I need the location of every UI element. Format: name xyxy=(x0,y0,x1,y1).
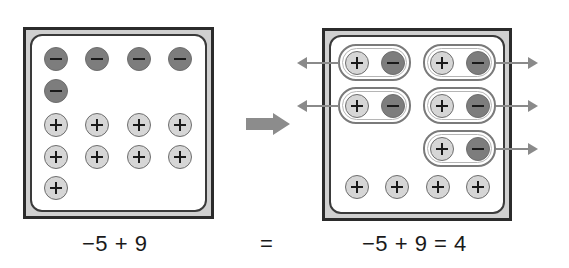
positive-counter xyxy=(345,175,369,199)
minus-icon xyxy=(131,51,147,67)
negative-counter xyxy=(168,47,192,71)
positive-counter xyxy=(345,51,369,75)
negative-counter xyxy=(381,51,405,75)
plus-icon xyxy=(48,180,64,196)
negative-counter xyxy=(44,79,68,103)
positive-counter xyxy=(127,113,151,137)
minus-icon xyxy=(48,83,64,99)
negative-counter xyxy=(466,51,490,75)
positive-counter xyxy=(430,137,454,161)
minus-icon xyxy=(172,51,188,67)
negative-counter xyxy=(44,47,68,71)
plus-icon xyxy=(430,179,446,195)
positive-counter xyxy=(168,113,192,137)
plus-icon xyxy=(434,141,450,157)
plus-icon xyxy=(349,98,365,114)
positive-counter xyxy=(44,113,68,137)
negative-counter xyxy=(466,137,490,161)
plus-icon xyxy=(131,149,147,165)
negative-counter xyxy=(466,94,490,118)
plus-icon xyxy=(48,117,64,133)
after-expression: −5 + 9 = 4 xyxy=(362,231,467,257)
minus-icon xyxy=(470,55,486,71)
before-expression: −5 + 9 xyxy=(82,231,147,257)
plus-icon xyxy=(434,55,450,71)
minus-icon xyxy=(89,51,105,67)
plus-icon xyxy=(434,98,450,114)
positive-counter xyxy=(466,175,490,199)
positive-counter xyxy=(44,176,68,200)
positive-counter xyxy=(430,94,454,118)
minus-icon xyxy=(470,141,486,157)
plus-icon xyxy=(349,179,365,195)
transform-arrow-icon xyxy=(245,112,291,136)
plus-icon xyxy=(131,117,147,133)
minus-icon xyxy=(385,55,401,71)
remove-right-arrow-icon xyxy=(496,142,538,156)
minus-icon xyxy=(385,98,401,114)
plus-icon xyxy=(172,117,188,133)
plus-icon xyxy=(389,179,405,195)
remove-right-arrow-icon xyxy=(496,99,538,113)
positive-counter xyxy=(168,145,192,169)
minus-icon xyxy=(470,98,486,114)
positive-counter xyxy=(85,145,109,169)
plus-icon xyxy=(89,117,105,133)
equals-sign: = xyxy=(260,231,273,257)
positive-counter xyxy=(430,51,454,75)
remove-right-arrow-icon xyxy=(496,56,538,70)
negative-counter xyxy=(381,94,405,118)
plus-icon xyxy=(470,179,486,195)
positive-counter xyxy=(85,113,109,137)
positive-counter xyxy=(426,175,450,199)
positive-counter xyxy=(44,145,68,169)
plus-icon xyxy=(89,149,105,165)
minus-icon xyxy=(48,51,64,67)
plus-icon xyxy=(349,55,365,71)
positive-counter xyxy=(385,175,409,199)
plus-icon xyxy=(172,149,188,165)
positive-counter xyxy=(345,94,369,118)
positive-counter xyxy=(127,145,151,169)
negative-counter xyxy=(85,47,109,71)
remove-left-arrow-icon xyxy=(297,99,339,113)
plus-icon xyxy=(48,149,64,165)
remove-left-arrow-icon xyxy=(297,56,339,70)
negative-counter xyxy=(127,47,151,71)
